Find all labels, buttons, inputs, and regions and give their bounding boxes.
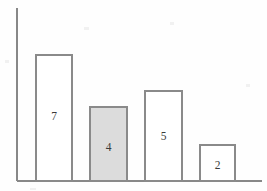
bar-value-label: 7 — [51, 110, 57, 122]
bar-value-label: 2 — [215, 159, 221, 171]
bar-chart-figure: 7452 — [0, 0, 267, 191]
scan-speck — [84, 27, 89, 30]
bar-value-label: 5 — [161, 130, 167, 142]
bar-value-label: 4 — [106, 141, 112, 153]
bar-chart-plot-area: 7452 — [0, 0, 267, 191]
scan-speck — [5, 60, 9, 63]
scan-speck — [30, 188, 36, 190]
scan-speck — [170, 22, 174, 25]
scan-speck — [246, 84, 250, 87]
